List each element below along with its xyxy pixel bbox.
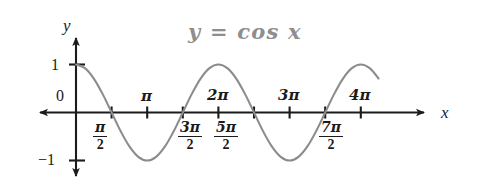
fraction-denominator: 2	[178, 137, 202, 153]
x-tick-label-2pi: 2π	[207, 88, 228, 103]
x-tick-label-pi-over-2: π 2	[93, 120, 107, 152]
fraction-numerator: π	[93, 120, 107, 137]
cosine-graph-figure: y = cos x y x 1 0 −1 π 2π 3π 4π π 2 3π 2…	[0, 0, 489, 184]
x-axis-label: x	[441, 104, 449, 121]
fraction-3pi-2: 3π 2	[178, 120, 202, 152]
fraction-denominator: 2	[93, 137, 107, 153]
fraction-numerator: 7π	[319, 120, 343, 137]
x-tick-label-3pi: 3π	[278, 88, 299, 103]
x-tick-4pi-text: 4π	[349, 86, 370, 104]
fraction-7pi-2: 7π 2	[319, 120, 343, 152]
x-tick-label-5pi-over-2: 5π 2	[214, 120, 238, 152]
fraction-5pi-2: 5π 2	[214, 120, 238, 152]
fraction-denominator: 2	[319, 137, 343, 153]
x-tick-label-4pi: 4π	[349, 88, 370, 103]
fraction-numerator: 5π	[214, 120, 238, 137]
y-tick-label-neg1: −1	[38, 152, 55, 168]
x-tick-label-3pi-over-2: 3π 2	[178, 120, 202, 152]
x-tick-label-7pi-over-2: 7π 2	[319, 120, 343, 152]
y-tick-label-0: 0	[56, 88, 64, 104]
fraction-pi-2: π 2	[93, 120, 107, 152]
y-tick-label-1: 1	[51, 57, 59, 73]
y-axis-label: y	[63, 17, 71, 34]
fraction-denominator: 2	[214, 137, 238, 153]
fraction-numerator: 3π	[178, 120, 202, 137]
x-tick-label-pi: π	[141, 89, 152, 104]
chart-title: y = cos x	[188, 19, 302, 44]
